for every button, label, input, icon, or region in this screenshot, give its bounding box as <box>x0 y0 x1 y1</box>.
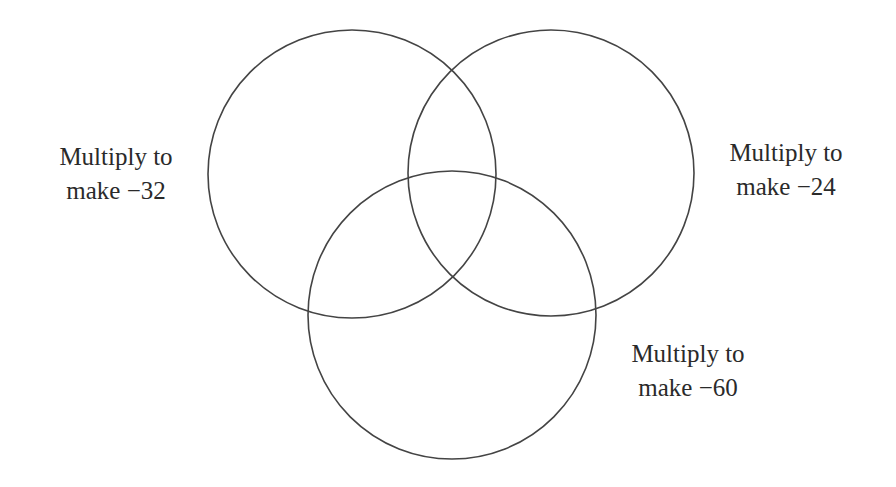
label-right-line2: make −24 <box>712 170 860 204</box>
venn-diagram <box>0 0 896 487</box>
label-right-line1: Multiply to <box>712 136 860 170</box>
label-bottom-line2: make −60 <box>612 371 764 405</box>
label-left-line1: Multiply to <box>38 140 194 174</box>
circle-right <box>408 30 694 316</box>
label-right-set: Multiply to make −24 <box>712 136 860 204</box>
label-bottom-set: Multiply to make −60 <box>612 337 764 405</box>
circle-left <box>208 30 496 318</box>
label-left-set: Multiply to make −32 <box>38 140 194 208</box>
label-left-line2: make −32 <box>38 174 194 208</box>
circle-bottom <box>308 171 596 459</box>
label-bottom-line1: Multiply to <box>612 337 764 371</box>
